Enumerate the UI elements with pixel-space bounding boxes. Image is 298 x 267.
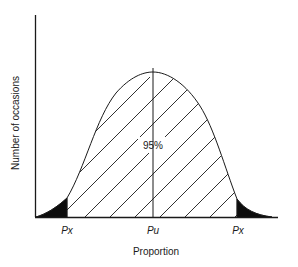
tick-label-pu: Pu xyxy=(147,225,160,236)
hatched-95-region xyxy=(0,77,298,247)
y-axis-label: Number of occasions xyxy=(10,76,21,170)
distribution-diagram: 95% Px Pu Px Proportion Number of occasi… xyxy=(0,0,298,267)
tick-label-left-px: Px xyxy=(61,225,74,236)
center-percentage-label: 95% xyxy=(143,140,163,151)
tick-label-right-px: Px xyxy=(232,225,245,236)
right-tail-region xyxy=(237,199,272,217)
left-tail-region xyxy=(36,198,67,217)
x-axis-label: Proportion xyxy=(133,246,179,257)
